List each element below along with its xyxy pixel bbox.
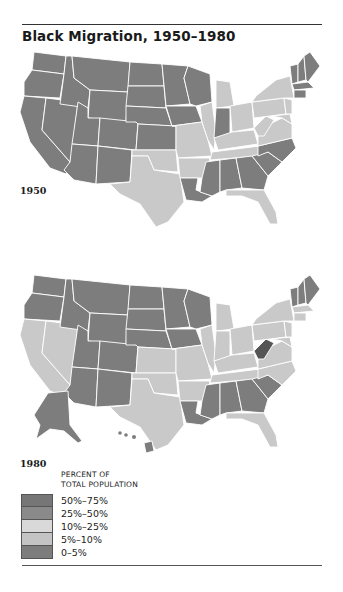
state-ma [292, 82, 314, 90]
legend-item: 10%–25% [21, 520, 161, 533]
state-wy [88, 90, 128, 122]
top-rule [22, 24, 322, 25]
hawaii-island [118, 431, 122, 435]
state-mi [216, 80, 234, 108]
state-me [304, 52, 320, 82]
state-sd [126, 309, 166, 331]
state-nm [96, 146, 132, 184]
state-oh [230, 325, 254, 355]
state-ny [252, 76, 294, 102]
legend-title: PERCENT OF TOTAL POPULATION [61, 470, 138, 490]
state-ct [294, 90, 306, 98]
hawaii-island [132, 435, 136, 439]
legend-swatch [21, 507, 53, 520]
state-wy [88, 313, 128, 345]
state-ks [136, 347, 176, 373]
state-hi [144, 441, 154, 453]
state-co [98, 341, 138, 373]
state-ma [292, 305, 314, 313]
state-me [304, 275, 320, 305]
state-fl [226, 413, 278, 447]
state-co [98, 118, 138, 150]
state-nd [128, 285, 164, 309]
state-oh [230, 102, 254, 132]
state-or [24, 293, 64, 321]
state-ny [252, 299, 294, 325]
legend-item: 25%–50% [21, 507, 161, 520]
hawaii-island [124, 433, 128, 437]
legend-swatch [21, 494, 53, 507]
legend-item: 50%–75% [21, 494, 161, 507]
state-mi [216, 303, 234, 331]
legend-item: 0–5% [21, 546, 161, 559]
us-map-1980 [20, 275, 320, 460]
legend-swatch [21, 520, 53, 533]
legend-item: 5%–10% [21, 533, 161, 546]
map-year-label-1950: 1950 [20, 185, 46, 196]
legend-swatch [21, 546, 53, 559]
us-map-1950 [20, 52, 320, 227]
state-ks [136, 124, 176, 150]
map-year-label-1980: 1980 [20, 458, 46, 469]
legend-swatch [21, 533, 53, 546]
state-ct [294, 313, 306, 321]
state-nd [128, 62, 164, 86]
bottom-rule [22, 565, 322, 566]
legend-rows: 50%–75% 25%–50% 10%–25% 5%–10% 0–5% [21, 494, 161, 559]
state-fl [226, 190, 278, 224]
state-or [24, 70, 64, 98]
state-sd [126, 86, 166, 108]
map-title: Black Migration, 1950–1980 [22, 28, 236, 44]
state-nm [96, 369, 132, 407]
